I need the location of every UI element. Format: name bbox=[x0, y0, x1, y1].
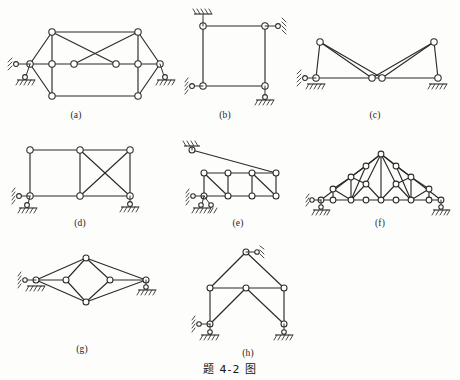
figure-d-label: (d) bbox=[60, 218, 100, 228]
figure-e bbox=[176, 140, 301, 218]
support-c-left bbox=[297, 70, 325, 89]
figure-c-members bbox=[316, 42, 438, 78]
figure-d-members bbox=[30, 150, 130, 196]
figure-f-label: (f) bbox=[360, 218, 400, 228]
figure-g-members bbox=[36, 258, 146, 302]
support-f-right bbox=[432, 200, 450, 215]
support-e-top-left bbox=[183, 141, 200, 150]
support-h-apex bbox=[246, 246, 264, 258]
figure-e-label: (e) bbox=[218, 218, 258, 228]
figure-sheet: (a) bbox=[0, 0, 460, 380]
figure-b-label: (b) bbox=[205, 110, 245, 120]
support-h-right bbox=[274, 324, 293, 340]
support-b-top-left bbox=[193, 9, 212, 26]
figure-f bbox=[305, 142, 457, 220]
figure-g-label: (g) bbox=[62, 344, 102, 354]
support-b-bottom-left bbox=[185, 78, 203, 94]
figure-d bbox=[12, 140, 152, 220]
support-d-left bbox=[12, 188, 37, 213]
figure-h bbox=[188, 246, 313, 346]
support-e-left bbox=[186, 189, 217, 213]
support-d-right bbox=[120, 196, 139, 212]
support-f-left bbox=[306, 194, 330, 215]
support-g-left bbox=[18, 272, 45, 291]
figure-b bbox=[185, 8, 295, 108]
figure-b-joints bbox=[200, 23, 268, 89]
figure-a bbox=[8, 14, 178, 109]
figure-a-label: (a) bbox=[56, 110, 96, 120]
support-b-bottom-right bbox=[255, 86, 274, 105]
figure-b-members bbox=[203, 26, 265, 86]
support-b-top-right bbox=[265, 18, 286, 34]
figure-h-label: (h) bbox=[228, 348, 268, 358]
support-c-right bbox=[428, 84, 447, 89]
figure-f-members bbox=[321, 154, 441, 200]
figure-c-label: (c) bbox=[355, 110, 395, 120]
figure-c bbox=[296, 20, 456, 110]
figure-g bbox=[14, 250, 169, 312]
sheet-caption: 题 4-2 图 bbox=[0, 360, 460, 376]
